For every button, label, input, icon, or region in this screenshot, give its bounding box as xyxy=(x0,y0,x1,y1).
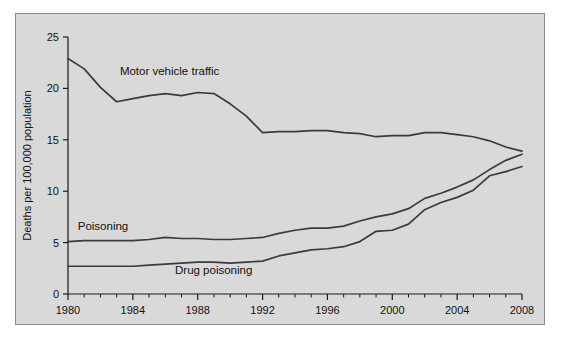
x-tick-label: 2004 xyxy=(445,304,469,316)
x-tick-label: 2008 xyxy=(510,304,534,316)
y-tick-label: 5 xyxy=(53,237,59,249)
x-tick-label: 2000 xyxy=(380,304,404,316)
y-tick-label: 15 xyxy=(47,134,59,146)
x-tick-label: 1984 xyxy=(121,304,145,316)
x-tick-label: 1992 xyxy=(250,304,274,316)
chart-labels: 0510152025198019841988199219962000200420… xyxy=(21,31,534,324)
y-tick-label: 0 xyxy=(53,288,59,300)
y-axis-title: Deaths per 100,000 population xyxy=(21,90,33,240)
series-label-poisoning: Poisoning xyxy=(78,220,129,232)
series-line-drug-poisoning xyxy=(68,167,522,267)
y-tick-label: 25 xyxy=(47,31,59,43)
series-label-drug-poisoning: Drug poisoning xyxy=(175,264,252,276)
x-tick-label: 1980 xyxy=(56,304,80,316)
series-label-motor-vehicle-traffic: Motor vehicle traffic xyxy=(120,65,220,77)
x-tick-label: 1988 xyxy=(185,304,209,316)
x-tick-label: 1996 xyxy=(315,304,339,316)
series-lines xyxy=(68,59,522,267)
line-chart: 0510152025198019841988199219962000200420… xyxy=(16,14,544,324)
y-tick-label: 10 xyxy=(47,185,59,197)
y-tick-label: 20 xyxy=(47,82,59,94)
chart-panel: 0510152025198019841988199219962000200420… xyxy=(15,13,545,325)
